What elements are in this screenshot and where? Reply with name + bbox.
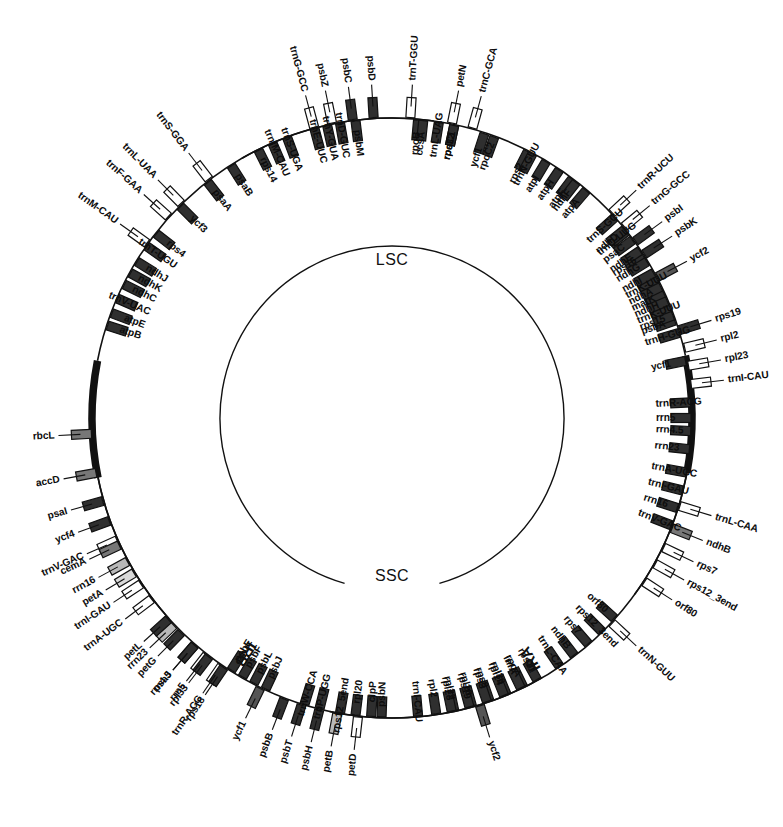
labels-layer: trnM-CAUtrnF-GAAtrnL-UAAtrnS-GGAtrnG-GCC…	[32, 35, 769, 776]
gene-label-outer: trnN-GUU	[636, 644, 677, 684]
gene-label-outer: trnT-GGU	[406, 35, 420, 81]
gene-block-outer	[82, 497, 104, 511]
gene-label-outer: petN	[453, 64, 468, 88]
gene-label-outer: rps7	[695, 558, 719, 577]
inner-reference-circle	[220, 246, 564, 583]
gene-block-outer	[247, 687, 264, 709]
gene-label-outer: psbB	[256, 731, 275, 758]
gene-block-outer	[133, 596, 154, 615]
gene-label-outer: psbH	[298, 744, 315, 771]
gene-block-outer	[688, 358, 709, 370]
gene-label-inner: ycf1	[650, 358, 672, 373]
gene-block-outer	[679, 502, 701, 516]
gene-label-outer: psaI	[46, 505, 69, 521]
gene-block-outer	[193, 161, 212, 182]
gene-label-inner: ccsA	[413, 130, 427, 156]
gene-label-outer: trnL-CAA	[714, 511, 760, 535]
gene-label-outer: trnG-GCC	[288, 45, 311, 94]
gene-label-inner: psbM	[352, 129, 366, 156]
gene-label-inner: rrn16	[642, 491, 670, 509]
gene-label-outer: trnC-GCA	[476, 45, 499, 93]
gene-label-outer: psbK	[672, 215, 700, 238]
gene-block-outer	[642, 239, 664, 257]
gene-label-inner: rps12_5end	[330, 677, 350, 734]
gene-label-inner: clpP	[366, 681, 378, 703]
gene-label-outer: petD	[345, 753, 358, 776]
gene-block-outer	[691, 377, 712, 388]
gene-label-outer: rpl23	[724, 349, 750, 364]
gene-label-inner: psaB	[233, 171, 255, 198]
genome-map-root: trnM-CAUtrnF-GAAtrnL-UAAtrnS-GGAtrnG-GCC…	[0, 0, 783, 827]
region-label-lsc: LSC	[376, 251, 408, 268]
gene-block-outer	[468, 107, 482, 129]
gene-block-outer	[476, 705, 490, 727]
gene-label-outer: psbT	[277, 738, 295, 765]
gene-label-inner: rrn5	[656, 412, 676, 423]
gene-label-outer: rps19	[713, 305, 742, 323]
gene-label-outer: ycf1	[229, 719, 248, 742]
gene-label-outer: ycf2	[486, 739, 502, 762]
gene-label-inner: trnI-CAU	[410, 680, 425, 722]
gene-block-outer	[346, 99, 358, 120]
gene-label-outer: trnM-CAU	[76, 189, 120, 225]
gene-label-outer: petB	[320, 749, 335, 773]
gene-block-outer	[273, 697, 289, 719]
gene-label-outer: trnI-CAU	[727, 369, 769, 385]
gene-label-inner: rrn23	[654, 439, 680, 453]
gene-label-inner: psaA	[211, 187, 235, 214]
gene-block-outer	[662, 544, 684, 561]
gene-block-outer	[351, 717, 362, 738]
gene-block-outer	[653, 560, 675, 578]
gene-block-outer	[448, 103, 461, 124]
gene-block-outer	[89, 517, 111, 532]
gene-block-outer	[684, 339, 706, 352]
gene-label-outer: ndhB	[705, 536, 733, 556]
gene-label-outer: ycf4	[53, 528, 76, 545]
gene-label-outer: psbD	[365, 55, 378, 81]
gene-label-outer: psbI	[662, 202, 685, 223]
gene-label-outer: ycf2	[687, 244, 710, 263]
gene-label-inner: rrn4.5	[656, 423, 685, 435]
gene-label-outer: rpl2	[719, 329, 740, 344]
ticks-layer	[58, 85, 723, 750]
gene-block-outer	[76, 468, 97, 480]
gene-label-outer: psbC	[340, 57, 354, 84]
inner-arc-top	[220, 246, 564, 583]
gene-label-outer: trnS-GGA	[154, 109, 191, 153]
gene-label-outer: psbZ	[315, 62, 331, 88]
genome-map-svg: trnM-CAUtrnF-GAAtrnL-UAAtrnS-GGAtrnG-GCC…	[0, 0, 783, 827]
gene-block-outer	[642, 578, 664, 596]
gene-label-outer: psaJ	[151, 669, 174, 693]
region-label-ssc: SSC	[375, 567, 409, 584]
gene-label-outer: rbcL	[32, 429, 54, 441]
gene-label-outer: orf80	[673, 597, 700, 620]
gene-label-outer: accD	[35, 473, 61, 488]
gene-label-inner: ycf3	[188, 213, 210, 235]
